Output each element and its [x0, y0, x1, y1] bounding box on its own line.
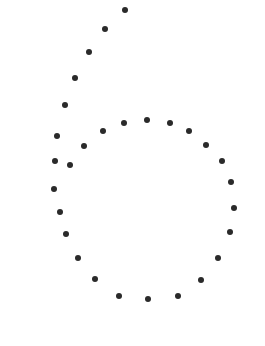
dot-point [198, 277, 204, 283]
dot-point [215, 255, 221, 261]
dot-point [86, 49, 92, 55]
dot-point [62, 102, 68, 108]
dot-point [63, 231, 69, 237]
dot-point [54, 133, 60, 139]
dot-point [67, 162, 73, 168]
dot-point [75, 255, 81, 261]
dot-point [203, 142, 209, 148]
dot-point [167, 120, 173, 126]
dot-point [186, 128, 192, 134]
dot-point [228, 179, 234, 185]
dot-point [227, 229, 233, 235]
dot-point [175, 293, 181, 299]
dot-point [116, 293, 122, 299]
dot-point [144, 117, 150, 123]
dot-point [52, 158, 58, 164]
dot-point [51, 186, 57, 192]
dot-point [57, 209, 63, 215]
dot-point [121, 120, 127, 126]
dot-point [102, 26, 108, 32]
dot-figure-canvas [0, 0, 265, 346]
dot-point [219, 158, 225, 164]
dot-point [72, 75, 78, 81]
dot-point [122, 7, 128, 13]
dot-point [92, 276, 98, 282]
dot-point [100, 128, 106, 134]
dot-point [231, 205, 237, 211]
dot-point [81, 143, 87, 149]
dot-point [145, 296, 151, 302]
